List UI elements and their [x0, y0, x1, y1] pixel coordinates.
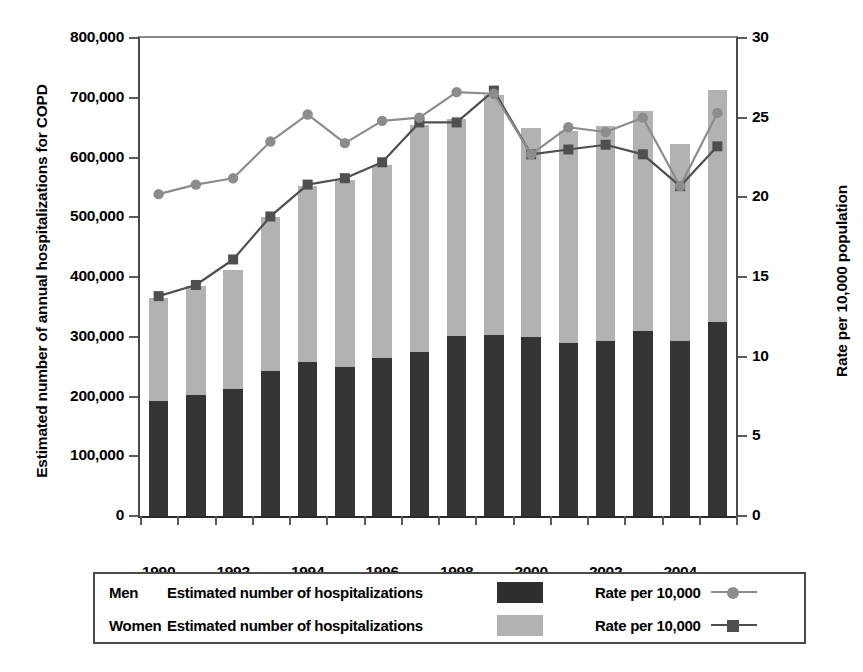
bar-segment-men — [298, 362, 317, 516]
y-tick-label-left: 400,000 — [4, 267, 124, 285]
bar-segment-men — [708, 322, 727, 516]
bar-segment-men — [484, 335, 503, 516]
bar-segment-women — [261, 217, 280, 371]
men-rate-marker — [414, 112, 424, 122]
bar-segment-women — [670, 144, 689, 341]
y-tick-left — [129, 157, 138, 159]
y-tick-left — [129, 216, 138, 218]
x-tick — [140, 516, 142, 525]
bar-segment-women — [410, 125, 429, 353]
bar-segment-women — [335, 180, 354, 366]
men-rate-marker — [153, 189, 163, 199]
bar-2004 — [670, 144, 689, 516]
bar-segment-men — [521, 337, 540, 516]
bar-segment-women — [559, 131, 578, 344]
x-tick — [662, 516, 664, 525]
x-tick — [289, 516, 291, 525]
bar-segment-men — [633, 331, 652, 516]
bar-segment-men — [559, 343, 578, 516]
x-tick — [215, 516, 217, 525]
y-tick-label-right: 10 — [752, 347, 769, 365]
bar-2002 — [596, 126, 615, 516]
men-rate-marker — [191, 179, 201, 189]
plot-inner: 0100,000200,000300,000400,000500,000600,… — [140, 38, 736, 516]
bar-1995 — [335, 180, 354, 516]
y-tick-right — [738, 276, 747, 278]
bar-1999 — [484, 95, 503, 516]
y-tick-label-right: 15 — [752, 267, 769, 285]
y-tick-right — [738, 117, 747, 119]
bar-1991 — [186, 286, 205, 516]
legend-line-key — [711, 584, 757, 600]
legend-rate-label: Rate per 10,000 — [595, 617, 701, 634]
y-tick-label-right: 0 — [752, 506, 760, 524]
x-tick — [177, 516, 179, 525]
x-tick — [699, 516, 701, 525]
y-tick-left — [129, 396, 138, 398]
y-tick-right — [738, 515, 747, 517]
bar-segment-men — [335, 367, 354, 516]
x-tick — [364, 516, 366, 525]
legend-bar-label: Estimated number of hospitalizations — [167, 617, 497, 634]
plot-area: 0100,000200,000300,000400,000500,000600,… — [138, 36, 738, 518]
legend-circle-marker-icon — [727, 587, 739, 599]
y-tick-left — [129, 37, 138, 39]
legend-rate-label: Rate per 10,000 — [595, 584, 701, 601]
y-tick-label-left: 800,000 — [4, 28, 124, 46]
bar-2003 — [633, 111, 652, 516]
bar-segment-women — [372, 165, 391, 358]
bar-1990 — [149, 298, 168, 516]
bar-segment-women — [186, 286, 205, 395]
y-tick-label-right: 20 — [752, 187, 769, 205]
y-tick-left — [129, 515, 138, 517]
bar-segment-women — [298, 186, 317, 362]
chart-legend: MenEstimated number of hospitalizationsR… — [93, 572, 806, 644]
y-tick-right — [738, 356, 747, 358]
bar-2001 — [559, 131, 578, 516]
bar-segment-men — [372, 358, 391, 516]
x-tick — [475, 516, 477, 525]
legend-bar-swatch — [497, 582, 543, 603]
x-tick — [736, 516, 738, 525]
men-rate-marker — [265, 136, 275, 146]
bar-segment-men — [149, 401, 168, 516]
legend-line-key — [711, 617, 757, 633]
x-tick — [587, 516, 589, 525]
bar-segment-women — [447, 119, 466, 336]
y-tick-right — [738, 37, 747, 39]
bar-segment-men — [223, 389, 242, 516]
x-tick — [513, 516, 515, 525]
legend-group-label: Women — [95, 617, 167, 634]
bar-1998 — [447, 119, 466, 516]
women-rate-marker — [228, 254, 238, 264]
bar-1994 — [298, 186, 317, 516]
bar-segment-women — [484, 95, 503, 335]
men-rate-marker — [451, 87, 461, 97]
legend-row-women: WomenEstimated number of hospitalization… — [95, 608, 804, 642]
y-tick-label-right: 5 — [752, 426, 760, 444]
chart-figure: Estimated number of annual hospitalizati… — [0, 0, 863, 672]
bar-segment-men — [410, 352, 429, 516]
x-tick — [550, 516, 552, 525]
bar-1997 — [410, 125, 429, 516]
y-tick-label-left: 100,000 — [4, 446, 124, 464]
bar-1992 — [223, 270, 242, 516]
bar-1996 — [372, 165, 391, 516]
y-tick-label-left: 600,000 — [4, 148, 124, 166]
y-tick-label-right: 30 — [752, 28, 769, 46]
bar-segment-women — [149, 298, 168, 401]
y-tick-label-left: 700,000 — [4, 88, 124, 106]
x-tick — [326, 516, 328, 525]
bar-segment-men — [186, 395, 205, 516]
bar-segment-women — [521, 128, 540, 337]
men-rate-marker — [302, 109, 312, 119]
men-rate-marker — [340, 138, 350, 148]
bar-segment-women — [223, 270, 242, 390]
men-rate-marker — [377, 116, 387, 126]
y-tick-label-left: 0 — [4, 506, 124, 524]
bar-segment-men — [596, 341, 615, 516]
y-tick-label-left: 500,000 — [4, 207, 124, 225]
bar-segment-women — [708, 90, 727, 322]
bar-segment-men — [261, 371, 280, 516]
y-tick-left — [129, 455, 138, 457]
